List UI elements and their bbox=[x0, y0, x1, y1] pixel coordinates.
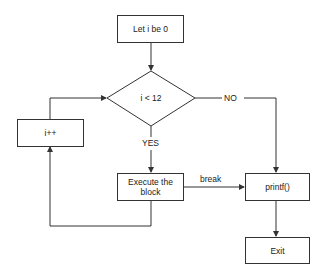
edge-no-arrow bbox=[244, 98, 276, 172]
increment-node: i++ bbox=[17, 119, 84, 147]
print-node: printf() bbox=[245, 173, 310, 201]
edge-label-no: NO bbox=[222, 93, 239, 103]
exit-node: Exit bbox=[245, 237, 310, 264]
edge-increment-condition bbox=[50, 98, 106, 119]
edge-label-break: break bbox=[198, 174, 223, 184]
condition-label: i < 12 bbox=[140, 93, 161, 103]
start-node: Let i be 0 bbox=[117, 15, 184, 43]
edge-label-yes: YES bbox=[140, 138, 161, 148]
execute-node: Execute the block bbox=[117, 173, 184, 201]
